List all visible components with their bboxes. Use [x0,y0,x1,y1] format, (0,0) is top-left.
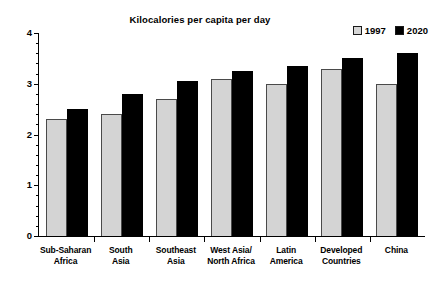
bar-2020 [397,53,418,236]
x-axis-tick [94,236,95,242]
x-axis-labels: Sub-SaharanAfricaSouthAsiaSoutheastAsiaW… [38,245,424,267]
x-axis-tick [204,236,205,242]
x-axis-label-line: West Asia/ [203,245,258,256]
x-axis-tick [149,236,150,242]
bar-1997 [266,84,287,236]
x-axis-label-line: Countries [314,256,369,267]
bar-group [39,33,94,236]
x-axis-label-line: Asia [93,256,148,267]
bar-1997 [46,119,67,236]
plot-area: 01234 [38,33,425,237]
bar-2020 [287,66,308,236]
x-axis-label-line: Sub-Saharan [38,245,93,256]
x-axis-tick [370,236,371,242]
bar-group [370,33,425,236]
y-axis-label: 1 [27,181,32,191]
x-axis-label-line: South [93,245,148,256]
x-axis-label-line: America [259,256,314,267]
chart-title: Kilocalories per capita per day [0,14,400,25]
bar-1997 [156,99,177,236]
x-axis-label: China [369,245,424,267]
x-axis-label-line: Developed [314,245,369,256]
y-axis-label: 0 [27,231,32,241]
bar-group [315,33,370,236]
bar-groups [39,33,425,236]
bar-1997 [211,79,232,236]
bar-1997 [376,84,397,236]
bar-2020 [342,58,363,236]
bar-2020 [177,81,198,236]
bar-1997 [101,114,122,236]
x-axis-label-line: North Africa [203,256,258,267]
x-axis-label: DevelopedCountries [314,245,369,267]
y-axis-tick-major [34,236,39,237]
x-axis-tick [315,236,316,242]
y-axis-label: 2 [27,130,32,140]
x-axis-label: SouthAsia [93,245,148,267]
y-axis-label: 3 [27,79,32,89]
x-axis-label-line: Southeast [148,245,203,256]
x-axis-label: SoutheastAsia [148,245,203,267]
bar-2020 [67,109,88,236]
bar-group [149,33,204,236]
bar-group [204,33,259,236]
x-axis-tick [260,236,261,242]
x-axis-label: Sub-SaharanAfrica [38,245,93,267]
x-axis-label: West Asia/North Africa [203,245,258,267]
bar-group [260,33,315,236]
x-axis-label-line: Latin [259,245,314,256]
kilocalories-bar-chart: Kilocalories per capita per day 1997 202… [0,0,436,285]
bar-1997 [321,69,342,236]
x-axis-label-line: China [369,245,424,256]
x-axis-label-line: Africa [38,256,93,267]
bar-2020 [122,94,143,236]
x-axis-label: LatinAmerica [259,245,314,267]
x-axis-label-line: Asia [148,256,203,267]
y-axis-label: 4 [27,28,32,38]
bar-2020 [232,71,253,236]
bar-group [94,33,149,236]
